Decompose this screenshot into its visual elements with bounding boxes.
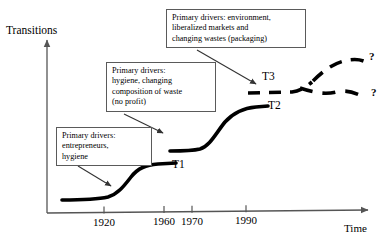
curve-T1 xyxy=(62,163,176,200)
curve-T3-upper-branch xyxy=(313,60,369,81)
uncertainty-marker-upper: ? xyxy=(369,50,375,62)
curve-T3-lower-branch xyxy=(300,88,366,98)
annotation-box-t2: Primary drivers: hygiene, changing compo… xyxy=(106,62,216,112)
arrow-box-t1-to-curve xyxy=(78,166,111,186)
annotation-box-t1: Primary drivers: entrepreneurs, hygiene xyxy=(56,127,152,166)
curve-label-T2: T2 xyxy=(268,99,281,111)
curve-T2 xyxy=(170,106,268,151)
x-tick-label-1920: 1920 xyxy=(93,216,115,228)
x-axis-label: Time xyxy=(344,222,367,234)
transitions-figure: Transitions Time 1920 1960 1970 1990 T1 … xyxy=(0,0,392,244)
y-axis-label: Transitions xyxy=(6,24,57,36)
x-tick-label-1990: 1990 xyxy=(235,214,257,226)
curve-label-T3: T3 xyxy=(262,70,275,82)
x-tick-label-1970: 1970 xyxy=(181,215,203,227)
uncertainty-marker-lower: ? xyxy=(371,86,377,98)
x-tick-label-1960: 1960 xyxy=(153,215,175,227)
x-axis xyxy=(47,210,368,213)
curve-label-T1: T1 xyxy=(172,158,185,170)
annotation-box-t3: Primary drivers: environment, liberalize… xyxy=(166,9,306,48)
